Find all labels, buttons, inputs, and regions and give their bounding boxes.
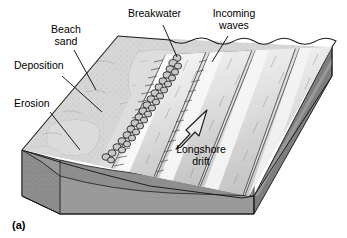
panel-label: (a) [12,219,25,231]
label-beach-sand: Beach sand [40,24,92,47]
label-erosion: Erosion [14,98,50,110]
terrain-block [22,25,336,214]
label-incoming-waves: Incoming waves [203,8,265,31]
label-deposition: Deposition [14,60,64,72]
label-breakwater: Breakwater [128,8,181,20]
figure-container: Beach sand Breakwater Incoming waves Dep… [0,0,347,238]
label-longshore-drift: Longshore drift [168,144,234,167]
